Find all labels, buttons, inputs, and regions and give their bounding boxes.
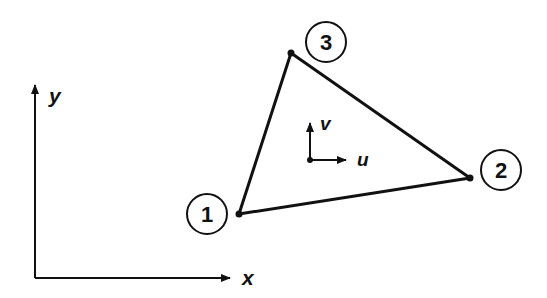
global-axes: y x xyxy=(35,84,255,289)
node-3-dot xyxy=(288,50,295,57)
svg-text:1: 1 xyxy=(201,202,213,227)
node-label-2: 2 xyxy=(481,150,521,190)
triangle-element xyxy=(236,50,474,218)
node-2-dot xyxy=(467,175,474,182)
triangle-element-diagram: y x 1 2 3 v u xyxy=(0,0,547,298)
node-label-1: 1 xyxy=(187,194,227,234)
node-label-3: 3 xyxy=(306,22,346,62)
node-1-dot xyxy=(236,211,243,218)
local-axes: v u xyxy=(307,113,369,170)
u-label: u xyxy=(357,149,369,170)
x-axis-label: x xyxy=(241,266,255,289)
y-axis-label: y xyxy=(48,84,62,107)
svg-text:2: 2 xyxy=(495,158,507,183)
svg-text:3: 3 xyxy=(320,30,332,55)
v-label: v xyxy=(320,113,332,134)
